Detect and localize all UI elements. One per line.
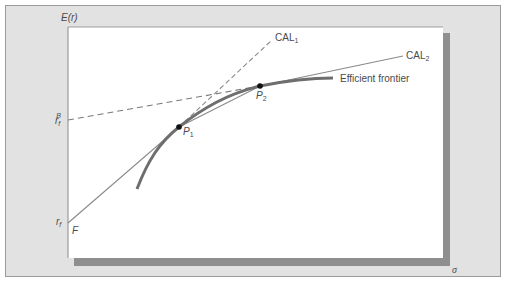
diagram-stage: E(r) σ rfB rf F P1 P2 CAL1 CAL2 Efficien… xyxy=(0,0,516,289)
diagram-canvas: E(r) σ rfB rf F P1 P2 CAL1 CAL2 Efficien… xyxy=(0,0,516,289)
plot-shadow-right xyxy=(443,33,450,266)
plot-area xyxy=(68,27,443,258)
point-p1 xyxy=(176,124,182,130)
plot-shadow-bottom xyxy=(74,258,450,266)
y-axis-label: E(r) xyxy=(61,12,78,23)
point-p2 xyxy=(257,83,263,89)
F-label: F xyxy=(72,225,79,236)
efficient-frontier-label: Efficient frontier xyxy=(340,73,410,84)
